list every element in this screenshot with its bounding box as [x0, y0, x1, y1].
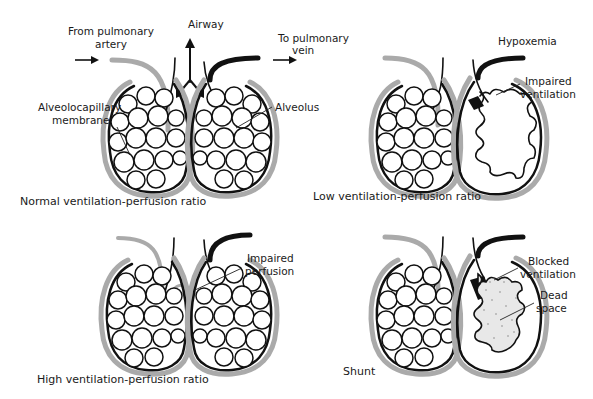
- pulmonary-vein: [210, 235, 250, 260]
- label-from-pulmonary-artery-2: artery: [95, 38, 127, 50]
- pulmonary-vein: [210, 58, 258, 80]
- panel-low-vq: Hypoxemia Impaired ventilation Low venti…: [313, 35, 576, 203]
- label-dead-space-2: space: [536, 302, 567, 314]
- caption-low-vq: Low ventilation-perfusion ratio: [313, 190, 481, 203]
- label-to-pulmonary-vein-1: To pulmonary: [277, 32, 349, 44]
- caption-normal: Normal ventilation-perfusion ratio: [20, 195, 206, 208]
- panel-shunt: Blocked ventilation Dead space Shunt: [343, 237, 576, 378]
- label-dead-space-1: Dead: [540, 289, 568, 301]
- alveoli-left: [103, 80, 193, 196]
- arrow-from-artery-icon: [75, 56, 99, 64]
- alveoli-left: [371, 258, 461, 374]
- label-impaired-perfusion-2: perfusion: [245, 265, 294, 277]
- caption-shunt: Shunt: [343, 365, 376, 378]
- caption-high-vq: High ventilation-perfusion ratio: [37, 373, 209, 386]
- alveoli-right: [187, 80, 277, 196]
- ventilation-perfusion-diagram: From pulmonary artery Airway To pulmonar…: [0, 0, 593, 399]
- panel-high-vq: Impaired perfusion High ventilation-perf…: [37, 235, 294, 386]
- label-alveolocapillary-membrane-2: membrane: [52, 114, 109, 126]
- alveoli-left: [371, 80, 461, 196]
- label-airway: Airway: [188, 18, 224, 30]
- label-hypoxemia: Hypoxemia: [498, 35, 557, 47]
- alveoli-left: [101, 258, 191, 374]
- bronchus-left: [164, 238, 174, 295]
- label-alveolus: Alveolus: [275, 101, 319, 113]
- label-blocked-ventilation-1: Blocked: [528, 255, 569, 267]
- pulmonary-vein: [478, 58, 523, 78]
- label-blocked-ventilation-2: ventilation: [520, 268, 576, 280]
- label-alveolocapillary-membrane-1: Alveolocapillary: [38, 101, 121, 113]
- arrow-to-vein-icon: [273, 56, 297, 64]
- label-impaired-perfusion-1: Impaired: [247, 252, 294, 264]
- label-to-pulmonary-vein-2: vein: [292, 44, 314, 56]
- label-impaired-ventilation-2: ventilation: [520, 88, 576, 100]
- pulmonary-vein: [478, 237, 523, 256]
- panel-normal: From pulmonary artery Airway To pulmonar…: [20, 18, 349, 208]
- label-impaired-ventilation-1: Impaired: [525, 75, 572, 87]
- label-from-pulmonary-artery-1: From pulmonary: [68, 25, 154, 37]
